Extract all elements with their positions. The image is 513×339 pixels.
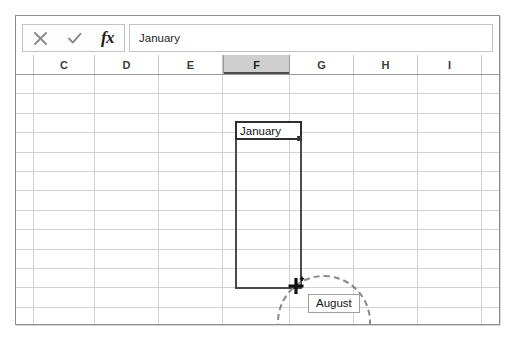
grid-cell[interactable] <box>95 172 159 190</box>
grid-cell[interactable] <box>223 308 290 324</box>
cancel-button[interactable] <box>23 25 57 51</box>
grid-cell[interactable] <box>95 308 159 324</box>
grid-cell[interactable] <box>159 308 223 324</box>
grid-cell[interactable] <box>418 230 482 248</box>
grid-cell[interactable] <box>223 269 290 287</box>
grid-cell[interactable] <box>16 75 34 93</box>
grid-cell[interactable] <box>223 230 290 248</box>
grid-cell[interactable] <box>159 230 223 248</box>
grid-cell[interactable] <box>418 211 482 229</box>
grid-cell[interactable] <box>290 230 354 248</box>
grid-cell[interactable] <box>159 172 223 190</box>
grid-cell[interactable] <box>34 94 95 112</box>
grid-cell[interactable] <box>418 308 482 324</box>
grid-cell[interactable] <box>223 75 290 93</box>
grid-cell[interactable] <box>16 153 34 171</box>
grid-cell[interactable] <box>418 153 482 171</box>
grid-cell[interactable] <box>418 191 482 209</box>
grid-cell[interactable] <box>482 308 499 324</box>
grid-cell[interactable] <box>223 191 290 209</box>
grid-cell[interactable] <box>482 94 499 112</box>
formula-input[interactable]: January <box>129 24 493 52</box>
grid-cell[interactable] <box>223 211 290 229</box>
grid-cell[interactable] <box>290 172 354 190</box>
grid-cell[interactable] <box>482 133 499 151</box>
column-header-e[interactable]: E <box>159 55 223 74</box>
grid-cell[interactable] <box>418 114 482 132</box>
grid-cell[interactable] <box>34 288 95 306</box>
grid-cell[interactable] <box>354 230 418 248</box>
grid-cell[interactable] <box>482 75 499 93</box>
grid-cell[interactable] <box>95 114 159 132</box>
grid-cell[interactable] <box>482 250 499 268</box>
grid-cell[interactable] <box>34 114 95 132</box>
fill-handle[interactable] <box>297 136 302 141</box>
grid-cell[interactable] <box>34 269 95 287</box>
grid-cell[interactable] <box>159 75 223 93</box>
grid-cell[interactable] <box>34 250 95 268</box>
column-header-i[interactable]: I <box>418 55 482 74</box>
grid-cell[interactable] <box>290 191 354 209</box>
grid-cell[interactable] <box>354 288 418 306</box>
grid-cell[interactable] <box>223 94 290 112</box>
grid-cell[interactable] <box>223 153 290 171</box>
grid-cell[interactable] <box>34 230 95 248</box>
grid-cell[interactable] <box>159 269 223 287</box>
grid-cell[interactable] <box>16 94 34 112</box>
grid-cell[interactable] <box>354 269 418 287</box>
grid-cell[interactable] <box>482 230 499 248</box>
grid-cell[interactable] <box>482 288 499 306</box>
grid-cell[interactable] <box>418 94 482 112</box>
column-header-f[interactable]: F <box>223 55 290 74</box>
grid-cell[interactable] <box>159 133 223 151</box>
accept-button[interactable] <box>57 25 91 51</box>
grid-cell[interactable] <box>354 250 418 268</box>
grid-cell[interactable] <box>159 114 223 132</box>
grid-cell[interactable] <box>16 308 34 324</box>
grid-cell[interactable] <box>354 133 418 151</box>
grid-cell[interactable] <box>34 191 95 209</box>
grid-cell[interactable] <box>354 191 418 209</box>
grid-cell[interactable] <box>95 230 159 248</box>
grid-cell[interactable] <box>290 211 354 229</box>
select-all-corner[interactable] <box>16 55 34 74</box>
grid-cell[interactable] <box>418 288 482 306</box>
spreadsheet-grid[interactable]: January August <box>16 75 499 324</box>
grid-cell[interactable] <box>16 211 34 229</box>
grid-cell[interactable] <box>34 153 95 171</box>
column-header-d[interactable]: D <box>95 55 159 74</box>
grid-cell[interactable] <box>418 75 482 93</box>
grid-cell[interactable] <box>482 153 499 171</box>
active-cell[interactable]: January <box>235 121 302 140</box>
grid-cell[interactable] <box>95 75 159 93</box>
grid-cell[interactable] <box>418 172 482 190</box>
grid-cell[interactable] <box>159 191 223 209</box>
grid-cell[interactable] <box>354 211 418 229</box>
grid-cell[interactable] <box>290 153 354 171</box>
grid-cell[interactable] <box>418 269 482 287</box>
grid-cell[interactable] <box>482 211 499 229</box>
grid-cell[interactable] <box>223 172 290 190</box>
column-header-c[interactable]: C <box>34 55 95 74</box>
grid-cell[interactable] <box>290 269 354 287</box>
grid-cell[interactable] <box>159 211 223 229</box>
grid-cell[interactable] <box>354 153 418 171</box>
grid-cell[interactable] <box>16 269 34 287</box>
grid-cell[interactable] <box>290 94 354 112</box>
grid-cell[interactable] <box>34 75 95 93</box>
grid-cell[interactable] <box>159 153 223 171</box>
grid-cell[interactable] <box>95 250 159 268</box>
grid-cell[interactable] <box>354 94 418 112</box>
grid-cell[interactable] <box>159 288 223 306</box>
grid-cell[interactable] <box>95 191 159 209</box>
grid-cell[interactable] <box>95 153 159 171</box>
grid-cell[interactable] <box>354 172 418 190</box>
grid-cell[interactable] <box>418 250 482 268</box>
grid-cell[interactable] <box>159 94 223 112</box>
grid-cell[interactable] <box>223 250 290 268</box>
grid-cell[interactable] <box>354 114 418 132</box>
grid-cell[interactable] <box>290 250 354 268</box>
grid-cell[interactable] <box>16 133 34 151</box>
grid-cell[interactable] <box>16 250 34 268</box>
grid-cell[interactable] <box>354 308 418 324</box>
